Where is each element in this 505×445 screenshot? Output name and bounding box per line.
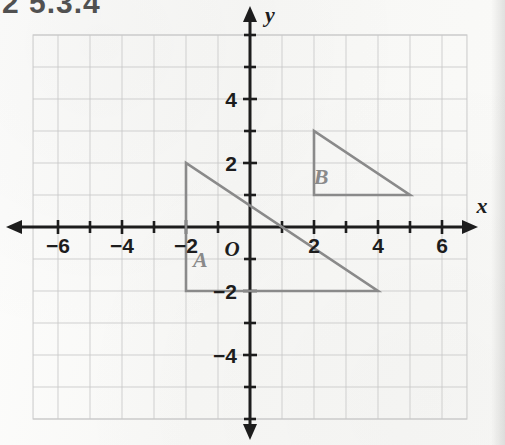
y-tick-label: −2 xyxy=(213,280,237,303)
y-tick-label: −4 xyxy=(213,344,237,367)
shape-label-a: A xyxy=(191,247,208,272)
axes xyxy=(6,6,478,440)
coordinate-plane-figure: −6−4−224642−2−4 x y O AB xyxy=(0,0,505,445)
x-axis-label: x xyxy=(476,193,488,218)
origin-label: O xyxy=(224,237,239,261)
x-tick-label: −4 xyxy=(110,234,134,257)
y-axis-label: y xyxy=(262,2,275,27)
x-tick-label: −6 xyxy=(46,234,70,257)
plotted-shapes xyxy=(186,131,410,291)
x-tick-label: 4 xyxy=(372,234,384,257)
y-tick-label: 4 xyxy=(225,88,237,111)
shape-label-b: B xyxy=(313,164,329,189)
y-tick-label: 2 xyxy=(225,152,237,175)
figure-page: 2 5.3.4 −6−4−224642−2−4 x y O AB xyxy=(0,0,505,445)
x-tick-label: 6 xyxy=(436,234,448,257)
x-tick-label: 2 xyxy=(308,234,320,257)
